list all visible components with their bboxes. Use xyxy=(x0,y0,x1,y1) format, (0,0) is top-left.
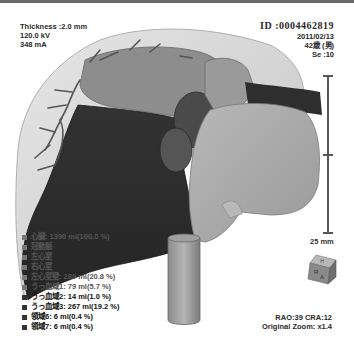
tube-voltage: 120.0 kV xyxy=(20,31,87,40)
cube-label-front: A xyxy=(320,274,324,280)
legend-swatch xyxy=(22,245,27,250)
legend-item[interactable]: 心臓: 1390 ml(100.0 %) xyxy=(22,232,119,242)
legend-label: 心臓: 1390 ml(100.0 %) xyxy=(31,232,110,242)
legend-label: 領域6: 6 ml(0.4 %) xyxy=(31,312,93,322)
legend-label: 冠動脈 xyxy=(31,242,52,252)
legend-swatch xyxy=(22,275,27,280)
view-info: RAO:39 CRA:12 Original Zoom: x1.4 xyxy=(262,313,332,331)
right-ventricle-region xyxy=(189,103,319,242)
patient-id: ID :0004462819 xyxy=(260,20,334,32)
cube-label-top: H xyxy=(320,258,324,264)
series-number: Se :10 xyxy=(260,50,334,59)
orientation-cube-icon[interactable]: H R A xyxy=(306,252,340,286)
scale-tick-top xyxy=(323,75,333,77)
legend-swatch xyxy=(22,325,27,330)
legend-label: 左心室壁: 289 ml(20.8 %) xyxy=(31,272,115,282)
scale-bar-label: 25 mm xyxy=(310,237,334,246)
view-angles: RAO:39 CRA:12 xyxy=(262,313,332,322)
legend-label: うっ血域3: 267 ml(19.2 %) xyxy=(31,302,119,312)
legend-item[interactable]: 左心室壁: 289 ml(20.8 %) xyxy=(22,272,119,282)
legend-item[interactable]: 領域6: 6 ml(0.4 %) xyxy=(22,312,119,322)
patient-info: ID :0004462819 2011/02/13 42歳 (男) Se :10 xyxy=(260,20,334,59)
legend-item[interactable]: うっ血域3: 267 ml(19.2 %) xyxy=(22,302,119,312)
scale-tick-bottom xyxy=(323,232,333,234)
aorta-tube xyxy=(168,238,200,325)
scale-bar xyxy=(323,75,333,235)
legend-label: 領域7: 6 ml(0.4 %) xyxy=(31,322,93,332)
slice-thickness: Thickness :2.0 mm xyxy=(20,22,87,31)
cube-label-left: R xyxy=(314,269,319,275)
legend-swatch xyxy=(22,315,27,320)
scan-params: Thickness :2.0 mm 120.0 kV 348 mA xyxy=(20,22,87,49)
legend-label: うっ血域1: 79 ml(5.7 %) xyxy=(31,282,111,292)
scale-tick-mid xyxy=(323,154,333,156)
tube-current: 348 mA xyxy=(20,40,87,49)
legend-label: 左心室 xyxy=(31,252,52,262)
view-zoom: Original Zoom: x1.4 xyxy=(262,322,332,331)
legend-item[interactable]: 左心室 xyxy=(22,252,119,262)
congestion-region-2 xyxy=(160,128,192,172)
legend-swatch xyxy=(22,305,27,310)
legend-item[interactable]: 領域7: 6 ml(0.4 %) xyxy=(22,322,119,332)
legend-swatch xyxy=(22,235,27,240)
legend-label: 右心室 xyxy=(31,262,52,272)
3d-volume-viewport[interactable]: Thickness :2.0 mm 120.0 kV 348 mA ID :00… xyxy=(0,0,354,349)
legend-swatch xyxy=(22,295,27,300)
segment-legend: 心臓: 1390 ml(100.0 %) 冠動脈 左心室 右心室 左心室壁: 2… xyxy=(22,232,119,332)
study-date: 2011/02/13 xyxy=(260,32,334,41)
legend-label: うっ血域2: 14 ml(1.0 %) xyxy=(31,292,111,302)
legend-item[interactable]: 冠動脈 xyxy=(22,242,119,252)
aorta-rim xyxy=(168,234,200,242)
legend-item[interactable]: うっ血域2: 14 ml(1.0 %) xyxy=(22,292,119,302)
legend-swatch xyxy=(22,285,27,290)
legend-item[interactable]: 右心室 xyxy=(22,262,119,272)
legend-item[interactable]: うっ血域1: 79 ml(5.7 %) xyxy=(22,282,119,292)
patient-age-sex: 42歳 (男) xyxy=(260,41,334,50)
legend-swatch xyxy=(22,265,27,270)
legend-swatch xyxy=(22,255,27,260)
